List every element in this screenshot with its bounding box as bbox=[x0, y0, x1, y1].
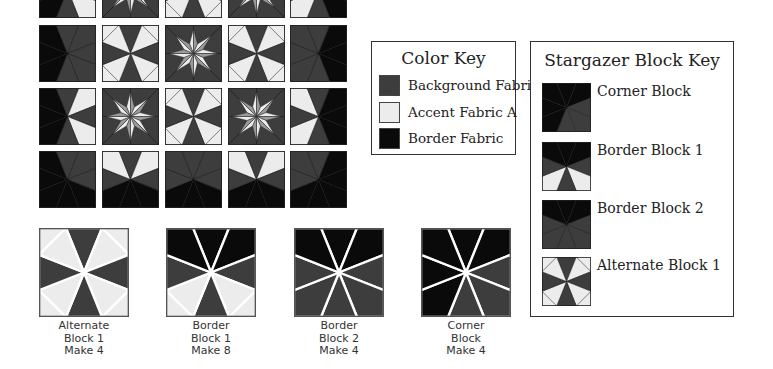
swatch-accent-fabric-a bbox=[379, 102, 400, 123]
caption-quantity: Make 8 bbox=[156, 345, 266, 358]
quilt-block-e-bot-acc bbox=[102, 151, 159, 208]
key-icon-corner-block bbox=[542, 83, 591, 132]
quilt-block-e-right-acc bbox=[290, 88, 347, 145]
quilt-block-e-right-acc bbox=[290, 0, 347, 18]
block-key-panel: Stargazer Block Key Corner Block Border … bbox=[530, 41, 734, 317]
diagram-alternate-block-1 bbox=[39, 228, 129, 317]
key-icon-border-block-1 bbox=[542, 142, 591, 191]
caption-border-block-1: Border Block 1 Make 8 bbox=[156, 320, 266, 358]
quilt-block-alt bbox=[165, 0, 222, 18]
quilt-block-alt bbox=[102, 25, 159, 82]
quilt-block-alt bbox=[228, 25, 285, 82]
quilt-block-c-bl bbox=[39, 151, 96, 208]
quilt-block-star bbox=[228, 88, 285, 145]
label-background-fabric: Background Fabric bbox=[408, 77, 539, 93]
quilt-block-e-left-acc bbox=[39, 0, 96, 18]
key-icon-alternate-block-1 bbox=[542, 257, 591, 306]
label-border-fabric: Border Fabric bbox=[408, 130, 503, 146]
quilt-block-e-bot bbox=[165, 151, 222, 208]
color-key-title: Color Key bbox=[372, 48, 515, 68]
caption-border-block-2: Border Block 2 Make 4 bbox=[284, 320, 394, 358]
quilt-block-alt bbox=[165, 88, 222, 145]
caption-line: Alternate bbox=[29, 320, 139, 333]
key-label-border-block-2: Border Block 2 bbox=[597, 200, 704, 216]
key-label-alternate-block-1: Alternate Block 1 bbox=[597, 257, 721, 273]
key-label-border-block-1: Border Block 1 bbox=[597, 142, 704, 158]
quilt-block-e-left-acc bbox=[39, 88, 96, 145]
key-icon-border-block-2 bbox=[542, 200, 591, 249]
color-key-panel: Color Key Background Fabric Accent Fabri… bbox=[371, 41, 516, 155]
swatch-border-fabric bbox=[379, 128, 400, 149]
quilt-block-e-right bbox=[290, 25, 347, 82]
label-accent-fabric-a: Accent Fabric A bbox=[408, 104, 517, 120]
quilt-layout bbox=[0, 0, 360, 215]
diagram-corner-block bbox=[421, 228, 511, 317]
diagram-border-block-1 bbox=[166, 228, 256, 317]
quilt-block-c-br bbox=[290, 151, 347, 208]
diagram-border-block-2 bbox=[294, 228, 384, 317]
caption-line: Border bbox=[284, 320, 394, 333]
key-label-corner-block: Corner Block bbox=[597, 83, 691, 99]
block-key-title: Stargazer Block Key bbox=[531, 50, 733, 70]
caption-line: Border bbox=[156, 320, 266, 333]
quilt-block-star bbox=[228, 0, 285, 18]
caption-quantity: Make 4 bbox=[284, 345, 394, 358]
swatch-background-fabric bbox=[379, 75, 400, 96]
quilt-block-e-bot-acc bbox=[228, 151, 285, 208]
quilt-block-e-left bbox=[39, 25, 96, 82]
caption-alternate-block-1: Alternate Block 1 Make 4 bbox=[29, 320, 139, 358]
caption-corner-block: Corner Block Make 4 bbox=[411, 320, 521, 358]
caption-line: Corner bbox=[411, 320, 521, 333]
quilt-block-star bbox=[165, 25, 222, 82]
quilt-block-star bbox=[102, 88, 159, 145]
quilt-block-star bbox=[102, 0, 159, 18]
caption-quantity: Make 4 bbox=[29, 345, 139, 358]
caption-quantity: Make 4 bbox=[411, 345, 521, 358]
